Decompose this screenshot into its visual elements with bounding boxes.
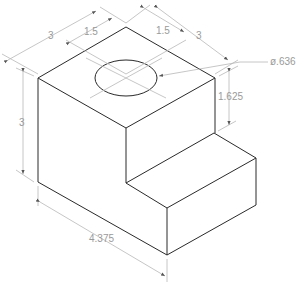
object-edges — [38, 27, 256, 255]
dim-top-right-depth: 3 — [196, 31, 202, 41]
isometric-drawing — [0, 0, 300, 286]
hole — [86, 58, 166, 98]
drawing-canvas: 3 1.5 1.5 3 ø.636 1.625 3 4.375 — [0, 0, 300, 286]
dim-step-height: 1.625 — [218, 92, 243, 102]
dim-top-right-hole-offset: 1.5 — [156, 26, 170, 36]
dimension-lines — [2, 5, 268, 282]
dim-top-left-hole-offset: 1.5 — [84, 27, 98, 37]
dim-hole-diameter: ø.636 — [270, 57, 296, 67]
dim-overall-length: 4.375 — [89, 234, 114, 244]
dim-overall-height: 3 — [19, 118, 25, 128]
dim-top-left-width: 3 — [48, 31, 54, 41]
